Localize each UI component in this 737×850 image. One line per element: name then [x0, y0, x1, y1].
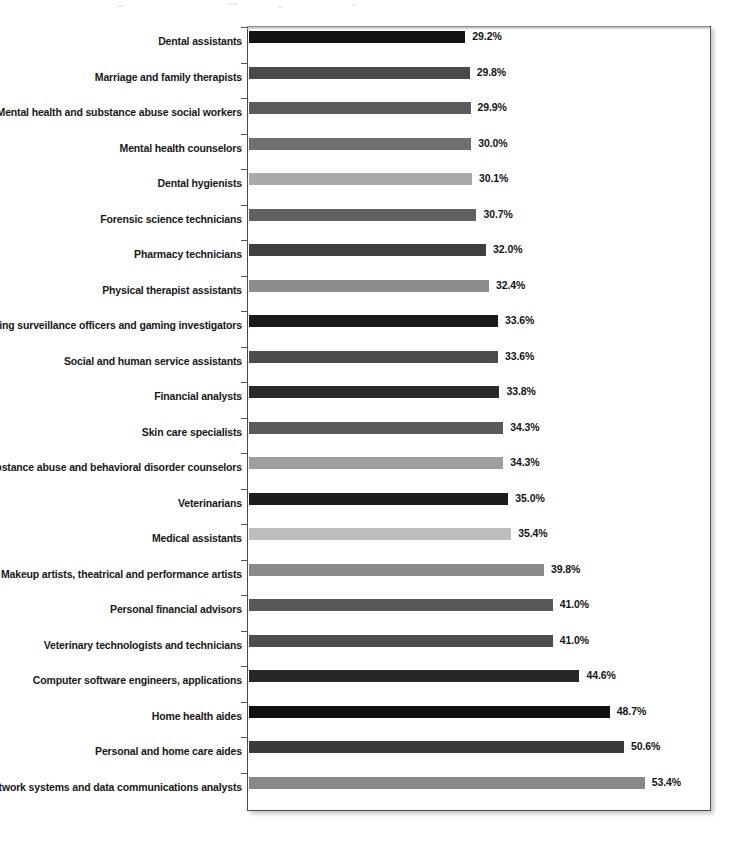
bar-row: Makeup artists, theatrical and performan…	[0, 560, 737, 596]
bar	[249, 528, 511, 540]
bar-value-label: 32.4%	[496, 278, 525, 293]
bar-row: Veterinary technologists and technicians…	[0, 631, 737, 667]
bar	[249, 670, 579, 682]
bar-value-label: 32.0%	[493, 242, 522, 257]
bar-row: Personal financial advisors41.0%	[0, 595, 737, 631]
bar-value-label: 30.1%	[479, 171, 508, 186]
bar-row: Dental assistants29.2%	[0, 27, 737, 63]
bar	[249, 741, 624, 753]
category-label: Personal and home care aides	[0, 745, 242, 758]
bar-value-label: 29.2%	[472, 29, 501, 44]
bar	[249, 102, 471, 114]
bar-value-label: 33.6%	[505, 349, 534, 364]
bar-value-label: 33.6%	[505, 313, 534, 328]
category-label: Skin care specialists	[0, 426, 242, 439]
axis-tick	[241, 240, 248, 241]
bar-value-label: 34.3%	[510, 455, 539, 470]
bar-value-label: 34.3%	[510, 420, 539, 435]
bar-row: Financial analysts33.8%	[0, 382, 737, 418]
bar	[249, 564, 544, 576]
category-label: Gaming surveillance officers and gaming …	[0, 319, 242, 332]
bar-row: Physical therapist assistants32.4%	[0, 276, 737, 312]
axis-tick	[241, 169, 248, 170]
bar	[249, 706, 610, 718]
bar	[249, 635, 553, 647]
axis-tick	[241, 737, 248, 738]
axis-tick	[241, 134, 248, 135]
category-label: Forensic science technicians	[0, 213, 242, 226]
category-label: Mental health counselors	[0, 142, 242, 155]
bar-value-label: 35.4%	[518, 526, 547, 541]
category-label: Personal financial advisors	[0, 603, 242, 616]
bar	[249, 599, 553, 611]
bar	[249, 280, 489, 292]
bar-row: Marriage and family therapists29.8%	[0, 63, 737, 99]
bar-value-label: 48.7%	[617, 704, 646, 719]
bar-value-label: 33.8%	[506, 384, 535, 399]
axis-tick	[241, 453, 248, 454]
axis-tick	[241, 666, 248, 667]
category-label: Marriage and family therapists	[0, 71, 242, 84]
axis-tick	[241, 524, 248, 525]
bar-row: Computer software engineers, application…	[0, 666, 737, 702]
bar-row: Social and human service assistants33.6%	[0, 347, 737, 383]
category-label: Physical therapist assistants	[0, 284, 242, 297]
category-label: Social and human service assistants	[0, 355, 242, 368]
bar-value-label: 50.6%	[631, 739, 660, 754]
bar	[249, 31, 465, 43]
category-label: Network systems and data communications …	[0, 781, 242, 794]
category-label: Makeup artists, theatrical and performan…	[0, 568, 242, 581]
bar-row: Forensic science technicians30.7%	[0, 205, 737, 241]
bar-value-label: 29.8%	[477, 65, 506, 80]
bar-value-label: 29.9%	[478, 100, 507, 115]
bar	[249, 493, 508, 505]
bar-row: Skin care specialists34.3%	[0, 418, 737, 454]
category-label: Dental assistants	[0, 35, 242, 48]
category-label: Dental hygienists	[0, 177, 242, 190]
axis-tick	[241, 27, 248, 28]
bar-row: Medical assistants35.4%	[0, 524, 737, 560]
category-label: Medical assistants	[0, 532, 242, 545]
bar	[249, 777, 645, 789]
axis-tick	[241, 631, 248, 632]
bar-row: Veterinarians35.0%	[0, 489, 737, 525]
category-label: Pharmacy technicians	[0, 248, 242, 261]
bar-row: Home health aides48.7%	[0, 702, 737, 738]
category-label: Computer software engineers, application…	[0, 674, 242, 687]
bar-row: Pharmacy technicians32.0%	[0, 240, 737, 276]
axis-tick	[241, 63, 248, 64]
bar	[249, 244, 486, 256]
axis-tick	[241, 489, 248, 490]
bar-value-label: 35.0%	[515, 491, 544, 506]
bar	[249, 386, 499, 398]
category-label: Financial analysts	[0, 390, 242, 403]
axis-tick	[241, 276, 248, 277]
bar	[249, 173, 472, 185]
axis-tick	[241, 382, 248, 383]
horizontal-bar-chart: Dental assistants29.2%Marriage and famil…	[0, 0, 737, 850]
bar-row: Mental health counselors30.0%	[0, 134, 737, 170]
axis-tick	[241, 205, 248, 206]
axis-tick	[241, 595, 248, 596]
axis-tick	[241, 347, 248, 348]
bar	[249, 422, 503, 434]
bar	[249, 457, 503, 469]
bar-value-label: 41.0%	[560, 597, 589, 612]
bar-row: Substance abuse and behavioral disorder …	[0, 453, 737, 489]
bar-row: Gaming surveillance officers and gaming …	[0, 311, 737, 347]
bar-value-label: 30.7%	[483, 207, 512, 222]
axis-tick	[241, 418, 248, 419]
category-label: Mental health and substance abuse social…	[0, 106, 242, 119]
bar-row: Personal and home care aides50.6%	[0, 737, 737, 773]
bar	[249, 67, 470, 79]
bar	[249, 138, 471, 150]
bar-value-label: 41.0%	[560, 633, 589, 648]
axis-tick	[241, 773, 248, 774]
bar-value-label: 53.4%	[652, 775, 681, 790]
bar-row: Dental hygienists30.1%	[0, 169, 737, 205]
bar	[249, 315, 498, 327]
axis-tick	[241, 98, 248, 99]
bar-value-label: 30.0%	[478, 136, 507, 151]
bar	[249, 351, 498, 363]
category-label: Substance abuse and behavioral disorder …	[0, 461, 242, 474]
